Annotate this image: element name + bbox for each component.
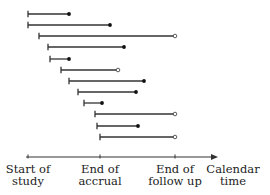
tick-label-start-of-study: Start of study <box>6 163 50 187</box>
tick-label-end-of-accrual: End of accrual <box>78 163 121 187</box>
subject-line <box>28 11 71 17</box>
event-filled-dot-icon <box>142 79 146 83</box>
subject-line <box>100 134 177 140</box>
censored-open-circle-icon <box>173 34 177 38</box>
censored-open-circle-icon <box>173 135 177 139</box>
event-filled-dot-icon <box>122 45 126 49</box>
tick-label-end-of-follow-up: End of follow up <box>148 163 202 187</box>
subject-line <box>69 78 146 84</box>
censored-open-circle-icon <box>173 112 177 116</box>
event-filled-dot-icon <box>67 57 71 61</box>
subject-line <box>78 89 138 95</box>
tick-label-line2: accrual <box>78 175 121 187</box>
tick-label-line2: follow up <box>148 175 202 187</box>
tick-label-line2: study <box>6 175 50 187</box>
event-filled-dot-icon <box>134 90 138 94</box>
axis-title-calendar-time: Calendar time <box>206 163 259 187</box>
event-filled-dot-icon <box>67 12 71 16</box>
subject-line <box>97 123 140 129</box>
axis-arrowhead-icon <box>211 154 218 160</box>
subject-line <box>84 100 104 106</box>
censored-open-circle-icon <box>116 68 120 72</box>
subject-line <box>48 44 126 50</box>
event-filled-dot-icon <box>100 101 104 105</box>
subject-lines <box>28 11 177 140</box>
subject-line <box>95 111 177 117</box>
subject-line <box>39 33 177 39</box>
subject-line <box>50 56 71 62</box>
axis-title-line2: time <box>206 175 259 187</box>
event-filled-dot-icon <box>108 23 112 27</box>
subject-line <box>28 22 112 28</box>
subject-line <box>61 67 120 73</box>
event-filled-dot-icon <box>136 124 140 128</box>
calendar-time-axis <box>26 154 218 160</box>
